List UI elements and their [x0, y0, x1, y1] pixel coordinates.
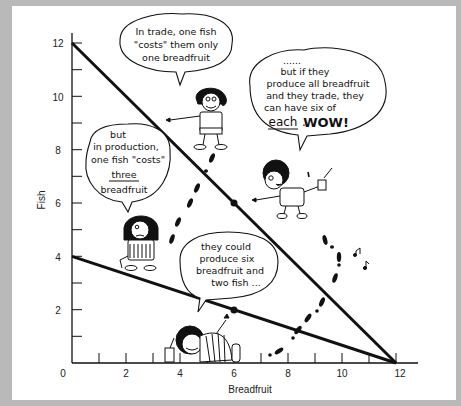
- bubble-each-line: produce all breadfruit: [267, 78, 370, 89]
- bubble-production-line: one fish "costs": [91, 154, 165, 165]
- music-note-icon: [354, 248, 370, 270]
- bubble-trade-line: "costs" them only: [134, 39, 219, 50]
- x-axis-title: Breadfruit: [228, 384, 272, 395]
- point-six-two: [231, 307, 238, 314]
- bubble-production: but in production, one fish "costs" thre…: [86, 124, 170, 212]
- boy-with-cup-figure: [252, 160, 332, 219]
- x-tick-label: 10: [336, 368, 348, 379]
- bubble-could-line: they could: [201, 241, 251, 252]
- y-tick-label: 12: [52, 38, 64, 49]
- bubble-each-wow: WOW!: [303, 115, 349, 130]
- bubble-trade: In trade, one fish "costs" them only one…: [120, 14, 232, 85]
- x-tick-label: 4: [177, 368, 183, 379]
- x-tick-label: 6: [231, 368, 237, 379]
- bubble-could-line: produce six: [200, 253, 255, 264]
- bubble-could-line: two fish ...: [211, 277, 260, 288]
- bubble-each-line: and they trade, they: [266, 90, 364, 101]
- bubble-production-emph: three: [111, 169, 136, 180]
- bubble-production-line: in production,: [93, 141, 159, 152]
- bubble-could-line: breadfruit and: [196, 265, 264, 276]
- bubble-each: ...... but if they produce all breadfrui…: [250, 48, 387, 150]
- bubble-trade-line: one breadfruit: [142, 52, 210, 63]
- bubble-each-emph: each: [269, 115, 298, 129]
- x-tick-labels: 0 2 4 6 8 10 12: [60, 368, 406, 379]
- x-tick-label: 8: [285, 368, 291, 379]
- y-tick-label: 6: [55, 198, 61, 209]
- bubble-production-line: but: [110, 129, 126, 140]
- x-ticks: [99, 353, 396, 363]
- lounging-boy-figure: [165, 314, 240, 362]
- y-axis-title: Fish: [36, 191, 47, 210]
- bubble-each-line: but if they: [280, 66, 329, 77]
- y-tick-label: 10: [52, 92, 64, 103]
- y-ticks: [72, 43, 82, 336]
- bubble-production-line: breadfruit: [100, 184, 147, 195]
- y-tick-label: 4: [55, 252, 61, 263]
- x-tick-label: 12: [394, 368, 406, 379]
- girl-pointing-figure: [166, 88, 227, 149]
- x-tick-label: 0: [60, 368, 66, 379]
- y-tick-labels: 2 4 6 8 10 12: [52, 38, 64, 316]
- x-tick-label: 2: [123, 368, 129, 379]
- bubble-each-line: ......: [283, 55, 301, 66]
- cartoon-chart: 2 4 6 8 10 12 0 2 4 6 8 10 12 Breadfruit…: [0, 0, 461, 406]
- y-tick-label: 8: [55, 145, 61, 156]
- y-tick-label: 2: [55, 305, 61, 316]
- point-six-six: [231, 200, 238, 207]
- bubble-trade-line: In trade, one fish: [136, 26, 217, 37]
- bubble-each-line: can have six of: [264, 102, 336, 113]
- bubble-could: they could produce six breadfruit and tw…: [180, 232, 278, 312]
- sad-girl-figure: [120, 216, 158, 271]
